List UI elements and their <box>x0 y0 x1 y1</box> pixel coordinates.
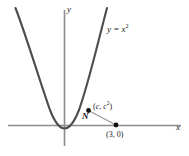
segment-n-to-point3 <box>89 111 117 126</box>
math-figure: y x y = x2 (c, c2) N (3, 0) <box>0 0 189 156</box>
curve-equation-lhs: y = x <box>107 24 126 34</box>
point-three-label: (3, 0) <box>106 131 123 139</box>
point-c-label: (c, c2) <box>93 103 112 111</box>
point-three-marker <box>114 123 119 128</box>
parabola-plot <box>0 0 189 156</box>
y-axis-label: y <box>67 5 71 14</box>
curve-equation-exponent: 2 <box>126 23 129 29</box>
curve-equation-label: y = x2 <box>107 25 129 34</box>
x-axis-label: x <box>176 123 180 132</box>
point-c-close-paren: ) <box>110 102 113 111</box>
point-n-label: N <box>82 112 89 121</box>
